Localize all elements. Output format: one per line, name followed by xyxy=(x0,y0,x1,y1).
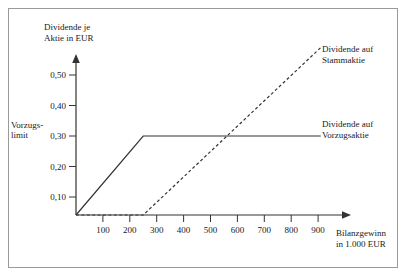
x-axis-title: Bilanzgewinn in 1.000 EUR xyxy=(336,228,386,250)
y-tick-label-050: 0,50 xyxy=(38,70,66,80)
series-line-vorzugsaktie xyxy=(76,136,321,215)
x-tick-label-700: 700 xyxy=(251,225,277,235)
series-label-vorzugsaktie-line1: Dividende auf xyxy=(322,119,373,130)
vorzugslimit-annotation: Vorzugs- limit xyxy=(11,120,43,140)
x-tick-label-600: 600 xyxy=(224,225,250,235)
y-tick-label-010: 0,10 xyxy=(38,192,66,202)
series-label-stammaktie-line2: Stammaktie xyxy=(322,55,373,66)
x-axis-title-line1: Bilanzgewinn xyxy=(336,228,386,239)
y-tick-label-020: 0,20 xyxy=(38,162,66,172)
series-label-stammaktie-line1: Dividende auf xyxy=(322,44,373,55)
x-tick-label-100: 100 xyxy=(90,225,116,235)
vorzugslimit-line2: limit xyxy=(11,130,43,140)
y-axis-ticks xyxy=(69,75,76,197)
y-axis-title: Dividende je Aktie in EUR xyxy=(44,22,94,44)
x-tick-label-900: 900 xyxy=(305,225,331,235)
y-tick-label-040: 0,40 xyxy=(38,101,66,111)
series-label-vorzugsaktie: Dividende auf Vorzugsaktie xyxy=(322,119,373,141)
x-axis-title-line2: in 1.000 EUR xyxy=(336,239,386,250)
series-label-stammaktie: Dividende auf Stammaktie xyxy=(322,44,373,66)
x-tick-label-500: 500 xyxy=(198,225,224,235)
x-tick-label-200: 200 xyxy=(117,225,143,235)
series-line-stammaktie xyxy=(76,48,321,216)
y-axis-arrow-icon xyxy=(72,54,80,63)
x-tick-label-800: 800 xyxy=(278,225,304,235)
x-axis-ticks xyxy=(103,215,318,222)
x-tick-label-300: 300 xyxy=(144,225,170,235)
series-label-vorzugsaktie-line2: Vorzugsaktie xyxy=(322,130,373,141)
x-axis-arrow-icon xyxy=(342,211,351,219)
y-axis-title-line1: Dividende je xyxy=(44,22,94,33)
chart-figure: Dividende je Aktie in EUR Bilanzgewinn i… xyxy=(0,0,407,277)
y-axis-title-line2: Aktie in EUR xyxy=(44,33,94,44)
vorzugslimit-line1: Vorzugs- xyxy=(11,120,43,130)
x-tick-label-400: 400 xyxy=(171,225,197,235)
